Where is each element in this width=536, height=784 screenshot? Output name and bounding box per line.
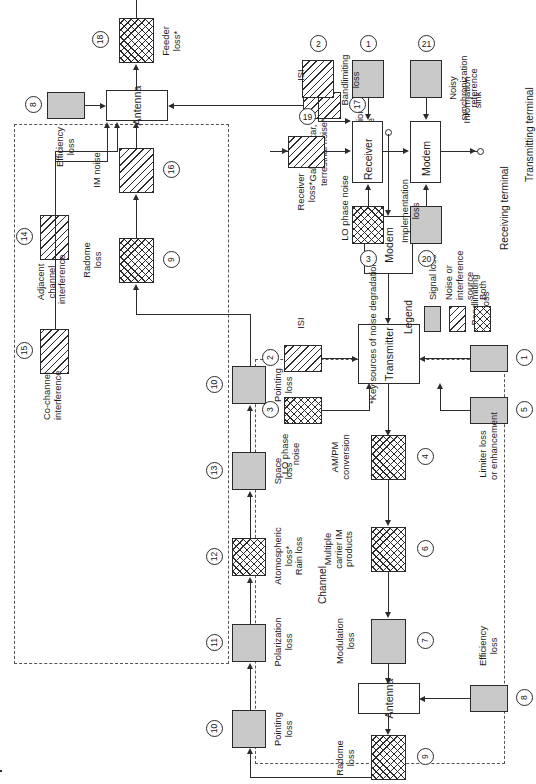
line-tx-radome-up: [250, 777, 372, 778]
arrow-noisy-sync-down: [423, 114, 429, 120]
information-sink-port: [477, 148, 484, 155]
receiving-terminal-caption: Receiving terminal: [500, 90, 511, 250]
transmitting-terminal-caption: Transmitting terminal: [525, 32, 536, 182]
arrow-rx-lophase-up: [365, 184, 371, 190]
rx-receiver-loss-number: 19: [299, 108, 316, 125]
line-rx-lophase-v: [368, 189, 369, 207]
rx-noisy-sync-number: 21: [418, 35, 435, 52]
rx-lo-phase-label: LO phase noise: [340, 170, 351, 246]
rx-receiver-loss-label: Receiver loss*: [296, 162, 317, 222]
arrow-into-receiver: [345, 148, 351, 154]
line-implementation-v: [426, 189, 427, 207]
tx-bandlimiting-number: 1: [516, 349, 533, 366]
rx-implementation-number: 20: [418, 250, 435, 267]
information-sink-label: Information sink: [462, 60, 483, 140]
line-rx-bandlimiting-v: [368, 98, 369, 115]
rx-isi-label: ISI: [296, 60, 307, 90]
line-receiver-to-modem: [383, 151, 405, 152]
line-noisy-sync-v: [426, 98, 427, 115]
rx-bandlimiting-number: 1: [360, 35, 377, 52]
rx-modem-label: Modem: [420, 141, 432, 176]
rx-isi-block[interactable]: [302, 60, 334, 98]
arrow-into-rxloss: [282, 148, 288, 154]
arrow-rx-isi-into-receiver: [345, 118, 351, 124]
line-rx-isi-v: [318, 98, 319, 122]
rx-lo-phase-number: 3: [360, 250, 377, 267]
tx-limiter-number: 5: [516, 401, 533, 418]
tx-efficiency-number: 8: [516, 689, 533, 706]
line-rxloss-to-receiver: [325, 151, 347, 152]
rx-implementation-label: Implementation loss: [400, 170, 421, 252]
rx-receiver-label: Receiver: [362, 139, 374, 180]
arrow-implementation-up: [423, 184, 429, 190]
arrow-rx-bandlimiting-down: [365, 114, 371, 120]
rx-noisy-sync-block[interactable]: [410, 60, 442, 98]
rx-lo-phase-block[interactable]: [352, 206, 384, 244]
arrow-into-sink: [470, 148, 476, 154]
arrow-into-rx-modem: [403, 148, 409, 154]
line-rx-isi-h: [318, 121, 347, 122]
rx-bandlimiting-label: Bandlimiting loss: [340, 50, 361, 110]
rx-isi-number: 2: [310, 35, 327, 52]
